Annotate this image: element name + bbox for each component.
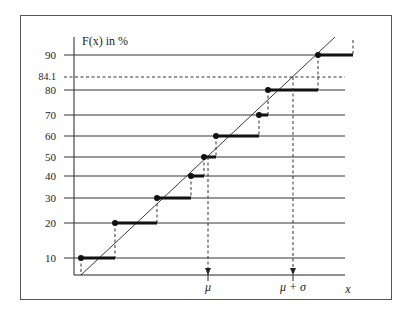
y-tick-30: 30: [45, 192, 57, 204]
dot-70: [256, 112, 262, 118]
mu-marker: μ: [204, 157, 211, 294]
y-tick-84-1: 84.1: [39, 71, 57, 82]
dot-10: [78, 255, 84, 261]
cdf-probability-chart: 90 84.1 80 70 60 50 40 30 20 10 F(x) in …: [0, 0, 410, 318]
dot-30: [154, 195, 160, 201]
dot-60: [213, 133, 219, 139]
y-tick-labels: 90 84.1 80 70 60 50 40 30 20 10: [39, 49, 57, 264]
dot-90: [315, 52, 321, 58]
y-tick-60: 60: [45, 130, 57, 142]
y-axis-title: F(x) in %: [82, 34, 128, 48]
y-tick-20: 20: [45, 217, 57, 229]
y-tick-80: 80: [45, 84, 57, 96]
mu-sigma-label: μ + σ: [279, 280, 307, 294]
dot-80: [265, 87, 271, 93]
dot-40: [188, 173, 194, 179]
dot-20: [112, 220, 118, 226]
dot-50: [201, 154, 207, 160]
y-tick-50: 50: [45, 151, 57, 163]
mu-sigma-arrow-icon: [290, 268, 296, 275]
y-tick-40: 40: [45, 170, 57, 182]
mu-plus-sigma-marker: μ + σ: [279, 77, 307, 294]
y-tick-10: 10: [45, 252, 57, 264]
mu-label: μ: [204, 280, 211, 294]
y-tick-70: 70: [45, 109, 57, 121]
x-axis-title: x: [344, 282, 351, 296]
y-tick-90: 90: [45, 49, 57, 61]
mu-arrow-icon: [205, 268, 211, 275]
